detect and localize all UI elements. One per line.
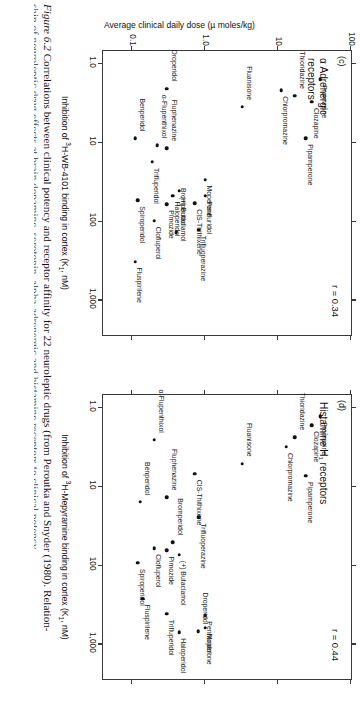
x-axis-title-c: Inhibition of 3H-WB-4101 binding in cort…: [58, 50, 72, 336]
y-tick-label: 0.1: [128, 34, 138, 46]
data-point: [155, 143, 158, 146]
data-point-label: Fluanisone: [245, 423, 253, 457]
panel-c-alpha-adrenergic: Average clinical daily dose (µ moles/kg)…: [60, 6, 360, 342]
x-tick-label: 1,000: [88, 632, 98, 653]
data-point-label: Clozapine: [312, 431, 320, 462]
data-point: [133, 137, 136, 140]
figure-page: Average clinical daily dose (µ moles/kg)…: [0, 0, 360, 704]
x-tick-label: 1.0: [88, 56, 98, 68]
data-point: [171, 541, 174, 544]
x-tick: [351, 407, 356, 408]
y-tick: [350, 46, 351, 51]
data-point-label: Bromperidol: [176, 498, 184, 535]
y-tick: [131, 390, 132, 395]
data-point: [152, 219, 155, 222]
data-point: [152, 438, 155, 441]
x-tick-label: 100: [88, 213, 98, 227]
x-tick: [98, 221, 103, 222]
data-point: [279, 88, 282, 91]
data-point: [165, 87, 168, 90]
x-tick: [98, 486, 103, 487]
data-point-label: Fluspirilene: [143, 605, 151, 640]
data-point-label: Pipamperone: [306, 144, 314, 185]
data-point-label: α-Flupenthixol: [158, 389, 166, 432]
x-tick: [351, 299, 356, 300]
data-point-label: Trifluoperazine: [199, 523, 207, 568]
figure-caption: Figure 6.2 Correlations between clinical…: [34, 4, 54, 700]
figure-number: Figure 6.2: [42, 4, 54, 51]
correlation-value-d: r = 0.44: [330, 629, 341, 661]
panel-letter-d: (d): [337, 400, 347, 411]
data-point-label: Penfluridol: [206, 621, 214, 654]
y-tick: [350, 390, 351, 395]
data-point-label: Spiroperidol: [138, 206, 146, 243]
data-point-label: Bromperidol: [180, 188, 188, 225]
data-point-label: Benperidol: [144, 462, 152, 495]
y-axis-title: Average clinical daily dose (µ moles/kg): [104, 20, 255, 30]
y-tick: [131, 46, 132, 51]
data-point: [293, 435, 296, 438]
data-point: [165, 146, 168, 149]
data-point-label: Chlorpromazine: [287, 453, 295, 502]
plot-frame-c: (c) α Adrenergic receptors r = 0.34 Prom…: [102, 50, 352, 336]
data-point-label: Promazine: [321, 85, 329, 118]
panel-letter-c: (c): [337, 56, 347, 67]
x-axis-title-prefix: Inhibition of: [60, 434, 70, 480]
data-point-label: Clofluperol: [155, 227, 163, 260]
data-point-label: Fluanisone: [245, 66, 253, 100]
data-point-label: Droperidol: [170, 50, 178, 82]
data-point-label: Clozapine: [312, 108, 320, 139]
data-point-label: Spiroperidol: [138, 569, 146, 606]
data-point: [240, 462, 243, 465]
data-point-label: Pimozide: [167, 210, 175, 238]
y-tick: [277, 679, 278, 684]
x-tick: [98, 63, 103, 64]
data-point: [165, 612, 168, 615]
x-tick: [98, 407, 103, 408]
data-point: [304, 474, 307, 477]
figure-caption-line2: ship of neuroleptic drug effects at brai…: [34, 4, 41, 700]
data-point: [136, 199, 139, 202]
data-point: [196, 630, 199, 633]
data-point-label: Penfluridol: [206, 202, 214, 235]
panel-d-histamine-h1: (d) Histamine H₁ receptors r = 0.44 Prom…: [60, 350, 360, 686]
data-point-label: (+) Butaclamol: [180, 561, 188, 606]
x-tick-label: 1.0: [88, 400, 98, 412]
x-tick: [98, 643, 103, 644]
figure-caption-line1: Correlations between clinical potency an…: [42, 54, 54, 632]
x-tick-label: 1,000: [88, 288, 98, 309]
x-tick-label: 100: [88, 557, 98, 571]
data-point: [165, 496, 168, 499]
data-point-label: Pimozide: [167, 556, 175, 584]
data-point: [133, 260, 136, 263]
data-point-label: Promazine: [321, 422, 329, 455]
y-tick: [204, 390, 205, 395]
data-point-label: Thioridazine: [298, 393, 306, 431]
data-point: [165, 549, 168, 552]
data-point-label: Trifluperidol: [153, 168, 161, 204]
data-point-label: Fluspirilene: [136, 268, 144, 303]
y-tick: [277, 46, 278, 51]
x-axis-title-d: Inhibition of 3H-Mepyramine binding in c…: [58, 394, 72, 680]
y-tick: [350, 335, 351, 340]
data-point-label: Haloperidol: [180, 638, 188, 673]
data-point-label: Droperidol: [201, 592, 209, 624]
y-tick: [131, 335, 132, 340]
x-axis-title-suffix: , nM): [60, 270, 70, 290]
correlation-value-c: r = 0.34: [330, 285, 341, 317]
x-tick: [351, 142, 356, 143]
data-point-label: Thioridazine: [298, 51, 306, 89]
data-point-label: Fluphenazine: [170, 449, 178, 490]
x-axis-title-middle: H-WB-4101 binding in cortex (K: [60, 146, 70, 267]
data-point: [285, 445, 288, 448]
x-tick: [98, 299, 103, 300]
x-tick-label: 10: [88, 136, 98, 145]
y-tick-label: 1.0: [201, 34, 211, 46]
y-tick: [350, 679, 351, 684]
data-point-label: Fluphenazine: [170, 100, 178, 141]
y-tick-label: 10: [274, 37, 284, 46]
data-point: [165, 203, 168, 206]
y-tick: [277, 390, 278, 395]
data-point-label: Trifluperidol: [167, 620, 175, 656]
y-tick: [204, 46, 205, 51]
